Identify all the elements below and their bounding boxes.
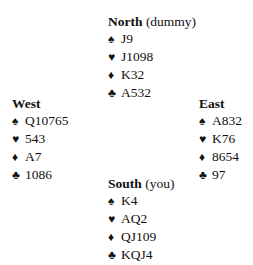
east-clubs: 97: [212, 167, 226, 182]
west-spades: Q10765: [25, 113, 69, 128]
north-clubs: A532: [121, 85, 151, 100]
south-name: South: [108, 176, 142, 191]
club-icon: ♣: [108, 247, 121, 264]
west-hand: West ♠Q10765 ♥543 ♦A7 ♣1086: [12, 95, 69, 184]
south-diamonds: QJ109: [121, 229, 156, 244]
spade-icon: ♠: [108, 193, 121, 210]
east-hand: East ♠A832 ♥K76 ♦8654 ♣97: [199, 95, 242, 184]
north-name: North: [108, 14, 143, 29]
spade-icon: ♠: [108, 31, 121, 48]
heart-icon: ♥: [108, 211, 121, 228]
south-note: (you): [145, 176, 174, 191]
east-diamonds: 8654: [212, 149, 239, 164]
south-hearts: AQ2: [121, 211, 147, 226]
east-spades: A832: [212, 113, 242, 128]
heart-icon: ♥: [12, 131, 25, 148]
south-clubs: KQJ4: [121, 247, 153, 262]
spade-icon: ♠: [199, 113, 212, 130]
south-spades: K4: [121, 193, 138, 208]
diamond-icon: ♦: [108, 67, 121, 84]
north-note: (dummy): [146, 14, 196, 29]
diamond-icon: ♦: [199, 149, 212, 166]
east-title: East: [199, 95, 242, 112]
north-title: North (dummy): [108, 13, 196, 30]
north-hand: North (dummy) ♠J9 ♥J1098 ♦K32 ♣A532: [108, 13, 196, 102]
north-hearts: J1098: [121, 49, 153, 64]
club-icon: ♣: [199, 167, 212, 184]
north-diamonds: K32: [121, 67, 144, 82]
club-icon: ♣: [12, 167, 25, 184]
south-title: South (you): [108, 175, 174, 192]
west-hearts: 543: [25, 131, 45, 146]
south-hand: South (you) ♠K4 ♥AQ2 ♦QJ109 ♣KQJ4: [108, 175, 174, 264]
diamond-icon: ♦: [12, 149, 25, 166]
west-diamonds: A7: [25, 149, 42, 164]
club-icon: ♣: [108, 85, 121, 102]
diamond-icon: ♦: [108, 229, 121, 246]
west-clubs: 1086: [25, 167, 52, 182]
north-spades: J9: [121, 31, 133, 46]
west-title: West: [12, 95, 69, 112]
heart-icon: ♥: [199, 131, 212, 148]
heart-icon: ♥: [108, 49, 121, 66]
east-hearts: K76: [212, 131, 235, 146]
spade-icon: ♠: [12, 113, 25, 130]
